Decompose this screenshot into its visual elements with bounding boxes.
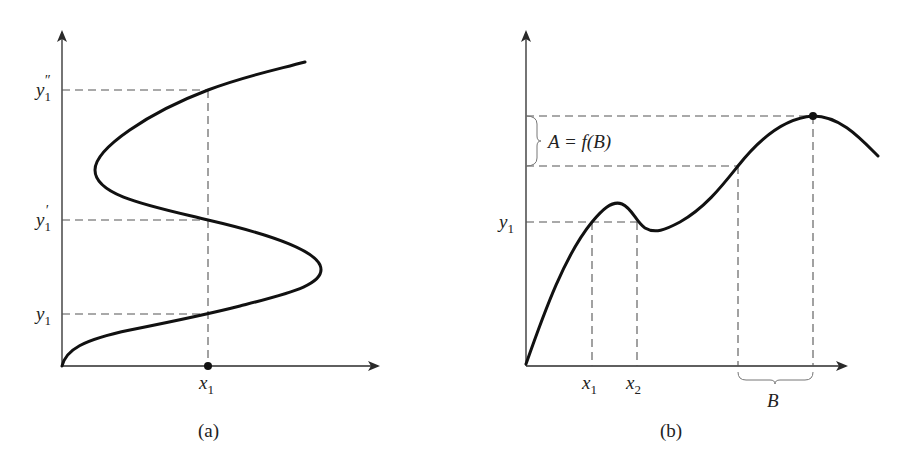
panel-a-x1-point xyxy=(204,362,212,370)
panel-b-label-y1: y1 xyxy=(497,211,514,236)
panel-b-label-a-eq: A = f(B) xyxy=(546,131,611,153)
panel-b: A = f(B) B y1 x1 x2 (b) xyxy=(497,32,878,442)
panel-b-brace-b xyxy=(738,372,813,384)
panel-b-max-point xyxy=(809,112,817,120)
panel-a-label-y1pp: y1″ xyxy=(34,73,51,104)
panel-b-curve xyxy=(526,116,878,364)
panel-b-label-b: B xyxy=(767,390,779,411)
panel-b-label-x2: x2 xyxy=(625,372,641,397)
panel-b-label-x1: x1 xyxy=(581,372,597,397)
panel-a: y1″ y1′ y1 x1 (a) xyxy=(34,32,378,442)
panel-a-label-y1: y1 xyxy=(34,303,51,328)
panel-a-caption: (a) xyxy=(198,420,219,442)
panel-b-brace-a xyxy=(526,116,541,166)
panel-b-caption: (b) xyxy=(660,420,682,442)
figure: y1″ y1′ y1 x1 (a) A = f(B) B xyxy=(0,0,905,467)
panel-a-curve xyxy=(62,62,321,366)
panel-a-label-y1p: y1′ xyxy=(34,203,51,234)
panel-a-label-x1: x1 xyxy=(198,372,214,397)
